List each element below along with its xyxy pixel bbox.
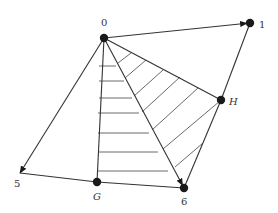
edge-0-G [97, 38, 104, 182]
node-label-5: 5 [14, 178, 20, 189]
node-label-1: 1 [259, 19, 265, 30]
edges [20, 23, 250, 188]
node-label-G: G [93, 191, 101, 202]
node-H [217, 96, 225, 104]
hatch-line [118, 53, 131, 63]
edge-0-1 [104, 23, 247, 38]
hatch-line [175, 143, 203, 167]
edge-0-6 [104, 38, 183, 185]
hatch-line [134, 70, 163, 96]
edge-0-5 [20, 38, 104, 173]
hatch-line [163, 101, 220, 149]
hatch-region-triangle-0-H-6 [118, 53, 220, 167]
edge-H-1 [221, 23, 250, 100]
node-label-H: H [228, 96, 238, 107]
hatch-region-triangle-0-G-6 [98, 66, 168, 171]
hatch-line [125, 60, 146, 78]
node-6 [180, 184, 188, 192]
node-0 [100, 34, 108, 42]
edge-H-6 [184, 100, 221, 188]
edge-5-G [20, 173, 97, 182]
hatch-line [142, 77, 180, 112]
node-labels: 01H5G6 [14, 17, 265, 207]
edge-0-H [104, 38, 221, 100]
edge-G-6 [97, 182, 184, 188]
node-label-6: 6 [181, 196, 187, 207]
node-label-0: 0 [101, 17, 107, 28]
node-G [93, 178, 101, 186]
graph-diagram: 01H5G6 [0, 0, 278, 213]
hatch-line [152, 88, 198, 130]
node-1 [246, 19, 254, 27]
hatched-regions [98, 53, 220, 171]
